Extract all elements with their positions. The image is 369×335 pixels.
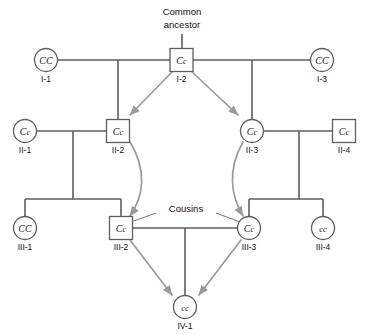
individual-I-1[interactable]: CC I-1 <box>35 49 58 85</box>
genotype-label: Cc <box>20 126 31 137</box>
individual-II-4[interactable]: Cc II-4 <box>333 120 356 156</box>
genotype-label: Cc <box>176 55 187 66</box>
individual-III-1[interactable]: CC III-1 <box>14 217 37 253</box>
genotype-label: Cc <box>247 126 258 137</box>
individual-id-label: II-1 <box>19 145 32 155</box>
pedigree-canvas-svg: Common ancestor Cousins CC I-1 Cc I-2 CC… <box>0 0 369 335</box>
individual-III-3[interactable]: Cc III-3 <box>238 217 261 253</box>
genotype-label: Cc <box>339 126 350 137</box>
arrow-II2-to-III2 <box>130 142 142 216</box>
cousins-label: Cousins <box>169 203 204 214</box>
common-ancestor-label-line2: ancestor <box>164 19 200 30</box>
individual-id-label: III-2 <box>114 242 129 252</box>
inheritance-arrows <box>130 72 243 295</box>
individual-I-2[interactable]: Cc I-2 <box>170 49 193 85</box>
individual-I-3[interactable]: CC I-3 <box>311 49 334 85</box>
cousins-leader-left <box>131 213 156 222</box>
genotype-label: CC <box>315 55 329 66</box>
individual-id-label: II-4 <box>338 145 351 155</box>
individual-IV-1[interactable]: cc IV-1 <box>174 296 197 332</box>
individual-id-label: I-3 <box>317 74 327 84</box>
genotype-label: Cc <box>113 126 124 137</box>
individual-II-2[interactable]: Cc II-2 <box>107 120 130 156</box>
individual-id-label: III-4 <box>316 242 331 252</box>
cousins-leader-right <box>216 213 240 222</box>
genotype-label: Cc <box>116 223 127 234</box>
individual-III-4[interactable]: cc III-4 <box>312 217 335 253</box>
individual-id-label: IV-1 <box>177 321 192 331</box>
individual-id-label: II-3 <box>246 145 259 155</box>
arrow-I2-to-II2 <box>130 72 172 115</box>
individual-id-label: III-3 <box>242 242 257 252</box>
individual-id-label: III-1 <box>18 242 33 252</box>
arrow-III2-to-IV1 <box>130 240 172 295</box>
arrow-I2-to-II3 <box>192 72 238 115</box>
individual-III-2[interactable]: Cc III-2 <box>110 217 133 253</box>
common-ancestor-label-line1: Common <box>163 6 202 17</box>
genotype-label: CC <box>39 55 53 66</box>
arrow-II3-to-III3 <box>232 142 243 216</box>
arrow-III3-to-IV1 <box>199 240 241 295</box>
individual-II-1[interactable]: Cc II-1 <box>14 120 37 156</box>
pedigree-diagram: Common ancestor Cousins CC I-1 Cc I-2 CC… <box>0 0 369 335</box>
individual-id-label: I-1 <box>41 74 51 84</box>
individual-id-label: I-2 <box>177 74 187 84</box>
genotype-label: cc <box>319 224 327 234</box>
genotype-label: CC <box>18 223 32 234</box>
genotype-label: Cc <box>244 223 255 234</box>
cousins-leader-lines <box>131 213 240 222</box>
individual-II-3[interactable]: Cc II-3 <box>241 120 264 156</box>
genotype-label: cc <box>181 303 189 313</box>
individual-id-label: II-2 <box>112 145 125 155</box>
